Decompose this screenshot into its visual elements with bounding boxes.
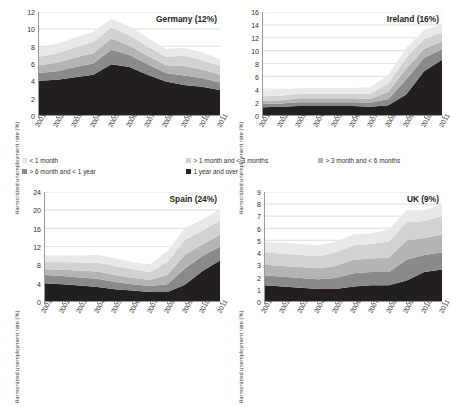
legend-swatch-m1to3-icon [186,158,191,163]
legend-swatch-y1plus-icon [186,169,191,174]
legend-swatch-lt1-icon [22,158,27,163]
y-tick-uk-2: 2 [257,274,264,281]
legend-label-lt1: < 1 month [30,157,59,164]
y-tick-uk-7: 7 [257,213,264,220]
y-tick-uk-9: 9 [257,189,264,196]
y-tick-uk-3: 3 [257,262,264,269]
legend-item-lt1[interactable]: < 1 month [22,157,58,164]
legend-swatch-m6to1y-icon [22,169,27,174]
y-tick-uk-5: 5 [257,237,264,244]
legend-label-m3to6: > 3 month and < 6 months [326,157,401,164]
plot-canvas-uk [264,192,442,302]
legend-item-m3to6[interactable]: > 3 month and < 6 months [318,157,400,164]
y-tick-uk-6: 6 [257,225,264,232]
legend-item-m6to1y[interactable]: > 6 month and < 1 year [22,168,96,175]
legend-label-m1to3: > 1 month and < 3 months [194,157,269,164]
legend-label-m6to1y: > 6 month and < 1 year [30,168,96,175]
plot-area-uk: 0123456789UK (9%)20012002200320042005200… [264,192,442,302]
chart-title-uk: UK (9%) [407,194,439,204]
y-tick-uk-1: 1 [257,286,264,293]
y-tick-uk-8: 8 [257,201,264,208]
legend-item-y1plus[interactable]: 1 year and over [186,168,238,175]
y-axis-label-uk: Harmonized unemployment rate (%) [238,302,244,407]
legend-item-m1to3[interactable]: > 1 month and < 3 months [186,157,268,164]
y-tick-uk-4: 4 [257,250,264,257]
legend-swatch-m3to6-icon [318,158,323,163]
legend-label-y1plus: 1 year and over [194,168,238,175]
